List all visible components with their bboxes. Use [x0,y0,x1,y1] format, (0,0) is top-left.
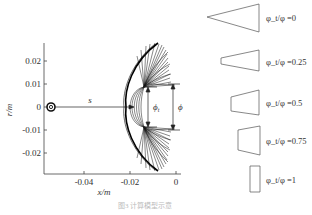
phi-label: ϕ [178,102,183,112]
standoff-arrow [55,105,134,109]
shape-label-0: φ_t/φ =0 [266,13,296,23]
contour-lines-upper [137,43,175,87]
x-tick-labels: -0.04 -0.02 0 [75,177,179,187]
y-axis-label: r/m [4,103,14,116]
shape-label-3: φ_t/φ =0.75 [266,136,307,146]
x-tick-2: 0 [174,177,179,187]
shape-ratio-05 [231,90,259,115]
contour-lines-center [130,87,144,127]
y-tick-4: -0.02 [22,148,41,158]
x-tick-1: -0.02 [121,177,140,187]
x-axis-label: x/m [97,187,111,197]
y-tick-labels: 0.02 0.01 0 -0.01 -0.02 [22,56,41,158]
liner-shapes [207,4,260,192]
y-tick-1: 0.01 [25,79,41,89]
y-tick-3: -0.01 [22,125,41,135]
shape-label-2: φ_t/φ =0.5 [266,98,302,108]
x-tick-0: -0.04 [75,177,94,187]
shape-ratio-025 [221,50,259,71]
y-tick-0: 0.02 [25,56,41,66]
shape-ratio-0 [207,4,259,32]
figure-canvas: 0.02 0.01 0 -0.01 -0.02 -0.04 -0.02 0 x/… [0,0,312,215]
phi-t-label: ϕt [153,102,160,113]
shape-ratio-075 [238,126,260,155]
figure-caption: 图3 计算模型示意 [118,201,172,210]
standoff-label: s [88,95,92,105]
shape-label-1: φ_t/φ =0.25 [266,57,307,67]
contour-lines-lower [137,127,175,171]
shape-label-4: φ_t/φ =1 [266,175,296,185]
y-tick-2: 0 [37,102,42,112]
shape-ratio-1 [250,166,260,192]
charge-icon [47,103,55,111]
